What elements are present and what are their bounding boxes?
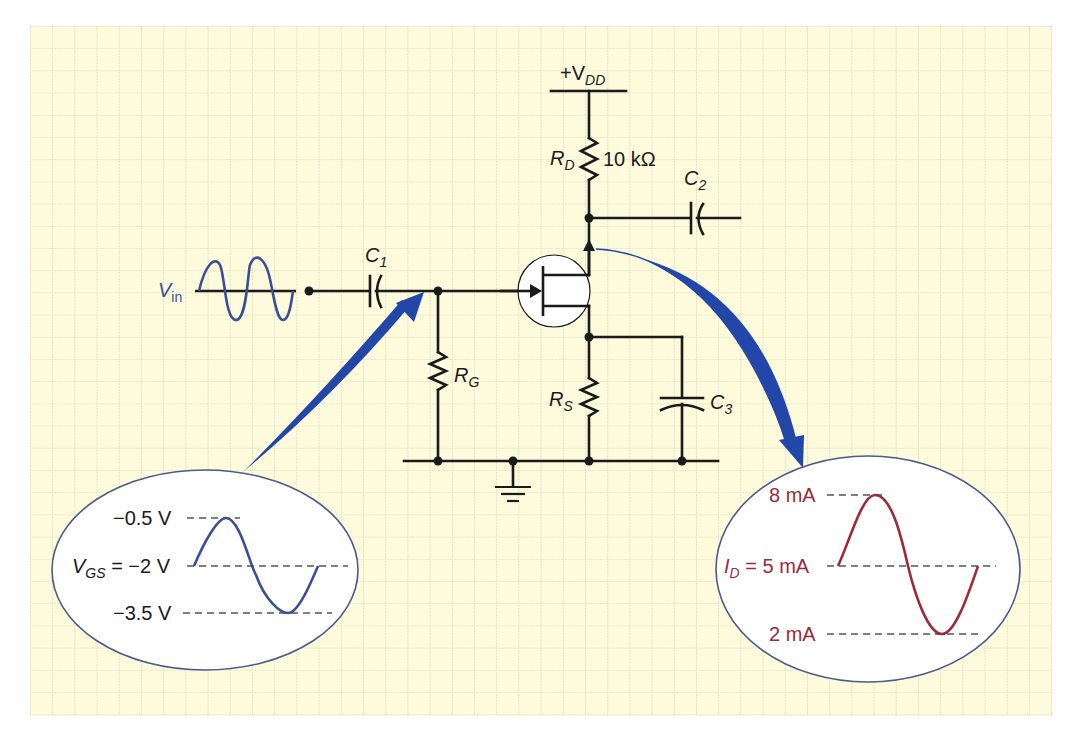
rd-value-label: 10 kΩ xyxy=(603,148,656,170)
circuit-diagram: +VDD RD 10 kΩ C2 C1 RG RS C3 Vin −0.5 V … xyxy=(0,0,1077,742)
vgs-min-label: −3.5 V xyxy=(113,602,172,624)
id-min-label: 2 mA xyxy=(769,623,816,645)
vgs-max-label: −0.5 V xyxy=(113,507,172,529)
id-max-label: 8 mA xyxy=(769,484,816,506)
